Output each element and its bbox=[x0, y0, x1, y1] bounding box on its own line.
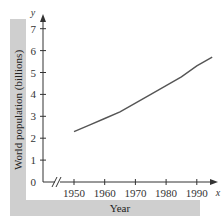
x-tick-label: 1990 bbox=[186, 187, 209, 199]
x-axis-arrow-icon bbox=[210, 179, 218, 185]
x-tick-label: 1960 bbox=[94, 187, 117, 199]
y-tick-label: 2 bbox=[31, 132, 37, 144]
x-tick-label: 1950 bbox=[63, 187, 86, 199]
y-tick-label: 3 bbox=[31, 110, 37, 122]
chart-plot: 0123456719501960197019801990yx bbox=[0, 0, 224, 219]
y-tick-label: 0 bbox=[31, 176, 37, 188]
y-tick-label: 4 bbox=[31, 88, 37, 100]
x-tick-label: 1970 bbox=[124, 187, 147, 199]
population-curve bbox=[74, 57, 212, 131]
y-tick-label: 6 bbox=[31, 45, 37, 57]
y-axis-arrow-icon bbox=[40, 14, 46, 22]
y-tick-label: 7 bbox=[31, 23, 37, 35]
x-variable-label: x bbox=[215, 187, 221, 198]
y-tick-label: 1 bbox=[31, 154, 37, 166]
x-tick-label: 1980 bbox=[155, 187, 178, 199]
y-variable-label: y bbox=[30, 7, 36, 18]
y-tick-label: 5 bbox=[31, 67, 37, 79]
